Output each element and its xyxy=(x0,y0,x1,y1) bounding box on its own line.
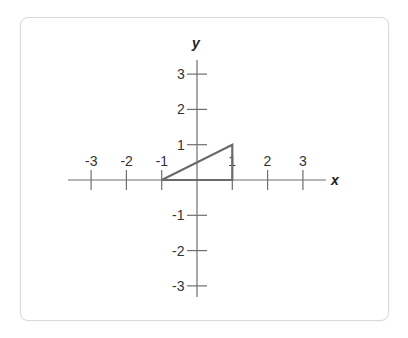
coordinate-plane: -3-2-1123 321-1-2-3 x y xyxy=(0,0,408,338)
x-axis-label: x xyxy=(330,172,340,188)
x-axis-ticks: -3-2-1123 xyxy=(85,153,307,190)
y-tick-label: 1 xyxy=(177,137,185,153)
x-tick-label: -2 xyxy=(120,153,133,169)
y-tick-label: 2 xyxy=(177,101,185,117)
y-tick-label: -3 xyxy=(172,278,185,294)
y-axis-label: y xyxy=(191,35,201,51)
x-tick-label: 3 xyxy=(299,153,307,169)
y-tick-label: -2 xyxy=(172,243,185,259)
x-tick-label: 2 xyxy=(264,153,272,169)
x-tick-label: -3 xyxy=(85,153,98,169)
y-tick-label: -1 xyxy=(172,207,185,223)
y-tick-label: 3 xyxy=(177,66,185,82)
x-tick-label: -1 xyxy=(156,153,169,169)
